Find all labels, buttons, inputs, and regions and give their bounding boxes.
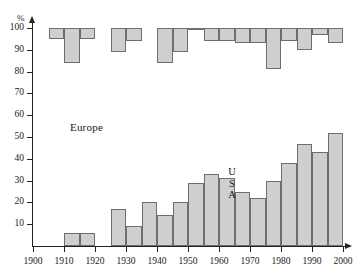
y-axis-arrow-icon — [29, 16, 35, 23]
bar-europe-1905 — [49, 28, 65, 39]
y-tick-40 — [27, 159, 32, 160]
x-tick-1910 — [64, 247, 65, 252]
x-tick-1990 — [312, 247, 313, 252]
bar-usa-1940 — [157, 215, 173, 246]
bar-usa-1985 — [297, 144, 313, 246]
x-axis-arrow-icon — [345, 243, 352, 249]
chart-container: % 100908070605040302010 1900191019201930… — [0, 0, 360, 274]
bar-usa-1910 — [64, 233, 80, 246]
usa-letter-u: U — [225, 166, 239, 178]
bar-usa-1935 — [142, 202, 158, 246]
x-tick-1970 — [250, 247, 251, 252]
x-tick-1940 — [157, 247, 158, 252]
bar-usa-1945 — [173, 202, 189, 246]
bar-usa-1955 — [204, 174, 220, 246]
y-tick-label-30: 30 — [15, 176, 25, 186]
y-tick-label-90: 90 — [15, 45, 25, 55]
bar-usa-1970 — [250, 198, 266, 246]
bar-usa-1975 — [266, 181, 282, 246]
bar-usa-1915 — [80, 233, 96, 246]
y-tick-30 — [27, 181, 32, 182]
y-axis-line — [32, 22, 33, 247]
y-tick-label-80: 80 — [15, 67, 25, 77]
x-tick-1960 — [219, 247, 220, 252]
bar-europe-1970 — [250, 28, 266, 43]
y-tick-label-60: 60 — [15, 110, 25, 120]
x-tick-1950 — [188, 247, 189, 252]
bar-europe-1975 — [266, 28, 282, 69]
x-tick-1980 — [281, 247, 282, 252]
bar-europe-1940 — [157, 28, 173, 63]
bar-europe-1930 — [126, 28, 142, 41]
y-tick-label-50: 50 — [15, 132, 25, 142]
bar-europe-1915 — [80, 28, 96, 39]
x-tick-label-2000: 2000 — [323, 256, 360, 266]
x-tick-2000 — [343, 247, 344, 252]
y-tick-label-10: 10 — [15, 219, 25, 229]
europe-region-label: Europe — [70, 122, 103, 133]
usa-letter-s: S — [225, 178, 239, 190]
bar-usa-1950 — [188, 183, 204, 246]
bar-europe-1945 — [173, 28, 189, 52]
bar-usa-1990 — [312, 152, 328, 246]
bar-europe-1925 — [111, 28, 127, 52]
y-tick-60 — [27, 115, 32, 116]
y-tick-label-70: 70 — [15, 88, 25, 98]
bar-europe-1960 — [219, 28, 235, 41]
y-tick-label-100: 100 — [10, 23, 24, 33]
y-tick-50 — [27, 137, 32, 138]
y-tick-100 — [27, 28, 32, 29]
bar-usa-1930 — [126, 226, 142, 246]
bar-usa-1995 — [328, 133, 344, 246]
y-tick-label-20: 20 — [15, 197, 25, 207]
usa-letter-a: A — [225, 189, 239, 201]
bar-europe-1990 — [312, 28, 328, 35]
y-tick-70 — [27, 93, 32, 94]
usa-region-label: U S A — [225, 166, 239, 201]
bar-europe-1965 — [235, 28, 251, 43]
y-tick-label-40: 40 — [15, 154, 25, 164]
y-tick-10 — [27, 224, 32, 225]
bar-europe-1910 — [64, 28, 80, 63]
y-tick-80 — [27, 72, 32, 73]
bar-europe-1985 — [297, 28, 313, 50]
x-tick-1930 — [126, 247, 127, 252]
x-tick-1900 — [33, 247, 34, 252]
bar-europe-1955 — [204, 28, 220, 41]
x-tick-1920 — [95, 247, 96, 252]
bar-usa-1980 — [281, 163, 297, 246]
y-tick-20 — [27, 202, 32, 203]
bar-europe-1995 — [328, 28, 344, 43]
bar-usa-1925 — [111, 209, 127, 246]
y-tick-90 — [27, 50, 32, 51]
bar-europe-1980 — [281, 28, 297, 41]
cropped-title-strip — [0, 0, 360, 8]
bar-europe-1950 — [188, 28, 204, 30]
